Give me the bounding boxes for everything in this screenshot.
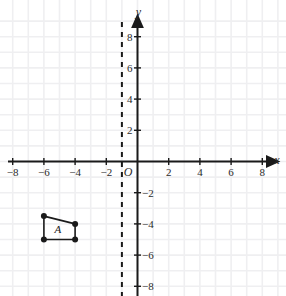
x-tick-label: −8 <box>7 166 19 178</box>
y-tick-label: −6 <box>142 249 154 261</box>
figure-vertex-point <box>72 221 78 227</box>
x-tick-label: −6 <box>38 166 50 178</box>
y-axis-label: y <box>135 5 142 19</box>
y-tick-label: −2 <box>142 187 154 199</box>
figure-vertex-point <box>72 237 78 243</box>
figure-vertex-point <box>41 213 47 219</box>
x-tick-label: 2 <box>166 166 172 178</box>
origin-label: O <box>124 165 133 179</box>
x-axis-label: x <box>273 153 280 167</box>
x-tick-label: 6 <box>228 166 234 178</box>
coordinate-plane-figure: −8−6−4−224688642−2−4−6−8OxyA <box>0 0 286 296</box>
x-tick-label: −2 <box>100 166 112 178</box>
coordinate-plane-svg: −8−6−4−224688642−2−4−6−8OxyA <box>0 0 286 296</box>
x-tick-label: 4 <box>197 166 203 178</box>
x-tick-label: −4 <box>69 166 81 178</box>
tick-labels-layer: −8−6−4−224688642−2−4−6−8Oxy <box>7 5 280 292</box>
y-tick-label: −8 <box>142 280 154 292</box>
figure-label-a: A <box>54 223 62 235</box>
x-tick-label: 8 <box>260 166 266 178</box>
y-tick-label: 2 <box>127 124 133 136</box>
y-tick-label: 8 <box>127 31 133 43</box>
figure-vertex-point <box>41 237 47 243</box>
y-tick-label: −4 <box>142 218 154 230</box>
y-tick-label: 4 <box>127 93 133 105</box>
y-tick-label: 6 <box>127 62 133 74</box>
